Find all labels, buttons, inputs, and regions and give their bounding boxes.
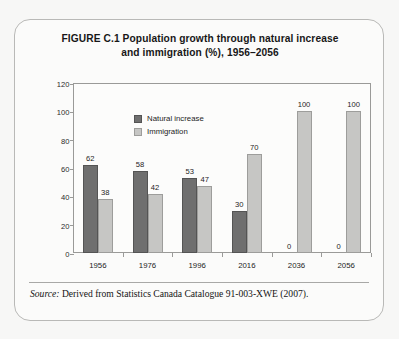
y-axis-label: 20 bbox=[61, 221, 69, 230]
bar-value-label: 58 bbox=[136, 160, 144, 169]
source-divider bbox=[29, 282, 369, 283]
x-axis-tick bbox=[321, 253, 322, 257]
page-title: FIGURE C.1 Population growth through nat… bbox=[37, 32, 363, 60]
bar-chart: 020406080100120 Natural increaseImmigrat… bbox=[51, 83, 371, 280]
bar-value-label: 100 bbox=[298, 100, 311, 109]
source-text: Derived from Statistics Canada Catalogue… bbox=[59, 288, 308, 299]
y-axis-label: 60 bbox=[61, 165, 69, 174]
x-axis-tick bbox=[222, 253, 223, 257]
bar-immigration-2036 bbox=[297, 111, 312, 253]
x-axis-tick bbox=[371, 253, 372, 257]
y-axis-label: 100 bbox=[57, 108, 70, 117]
figure-title-line-1: FIGURE C.1 Population growth through nat… bbox=[37, 32, 363, 46]
x-axis-tick bbox=[123, 253, 124, 257]
bar-natural-increase-1956 bbox=[83, 165, 98, 253]
y-axis-label: 0 bbox=[65, 250, 69, 259]
x-axis-label-2016: 2016 bbox=[238, 261, 255, 270]
x-axis-tick bbox=[172, 253, 173, 257]
bar-value-label: 30 bbox=[235, 200, 243, 209]
bar-value-label: 0 bbox=[337, 242, 341, 251]
bar-natural-increase-2016 bbox=[232, 211, 247, 254]
source-note: Source: Derived from Statistics Canada C… bbox=[30, 288, 308, 299]
bar-immigration-2056 bbox=[346, 111, 361, 253]
bar-value-label: 47 bbox=[200, 175, 208, 184]
x-axis-label-2036: 2036 bbox=[288, 261, 305, 270]
bar-natural-increase-1976 bbox=[133, 171, 148, 253]
bar-value-label: 100 bbox=[347, 100, 360, 109]
bar-immigration-1956 bbox=[98, 199, 113, 253]
bar-value-label: 70 bbox=[250, 143, 258, 152]
y-axis-tick bbox=[70, 254, 74, 255]
figure-page: FIGURE C.1 Population growth through nat… bbox=[0, 0, 399, 339]
y-axis-label: 40 bbox=[61, 193, 69, 202]
y-axis-label: 120 bbox=[57, 80, 70, 89]
bar-immigration-1996 bbox=[197, 186, 212, 253]
x-axis-label-2056: 2056 bbox=[337, 261, 354, 270]
figure-box: FIGURE C.1 Population growth through nat… bbox=[14, 19, 384, 321]
bar-value-label: 38 bbox=[101, 188, 109, 197]
x-axis-label-1996: 1996 bbox=[188, 261, 205, 270]
bar-immigration-2016 bbox=[247, 154, 262, 253]
bar-immigration-1976 bbox=[148, 194, 163, 254]
bar-value-label: 0 bbox=[287, 242, 291, 251]
y-axis-label: 80 bbox=[61, 136, 69, 145]
x-axis-label-1956: 1956 bbox=[89, 261, 106, 270]
x-axis-tick bbox=[272, 253, 273, 257]
source-label: Source: bbox=[30, 288, 59, 299]
x-axis-label-1976: 1976 bbox=[139, 261, 156, 270]
bar-natural-increase-1996 bbox=[182, 178, 197, 253]
bars-layer: 623858425347307001000100 bbox=[73, 83, 371, 253]
figure-title-line-2: and immigration (%), 1956–2056 bbox=[37, 46, 363, 60]
bar-value-label: 62 bbox=[86, 154, 94, 163]
bar-value-label: 53 bbox=[185, 167, 193, 176]
bar-value-label: 42 bbox=[151, 183, 159, 192]
